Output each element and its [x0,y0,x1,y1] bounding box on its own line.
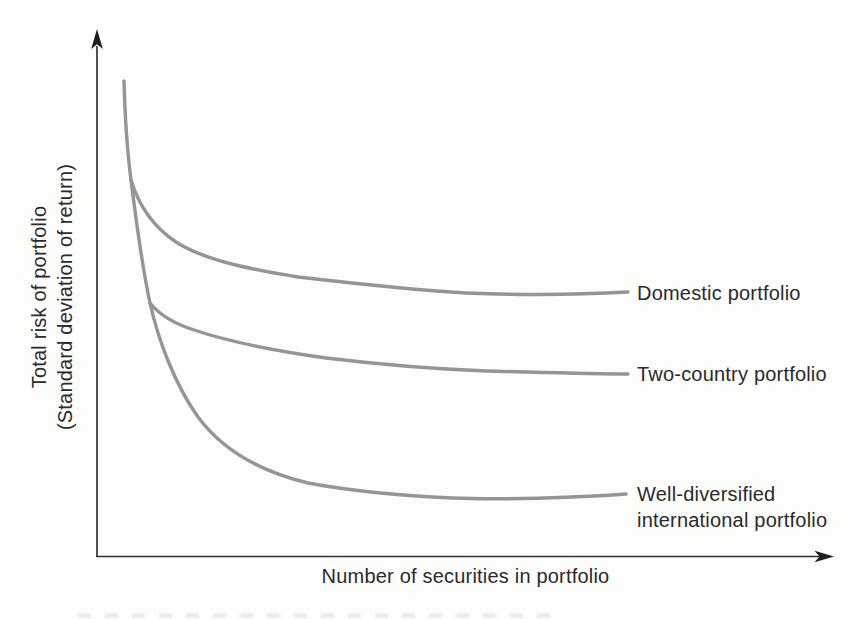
domestic-portfolio-curve [131,180,628,294]
well-diversified-portfolio-label: Well-diversified international portfolio [637,481,827,533]
well-diversified-international-curve [124,81,626,499]
domestic-portfolio-label: Domestic portfolio [637,282,801,304]
risk-diversification-figure: Total risk of portfolio (Standard deviat… [0,0,868,619]
x-axis-label: Number of securities in portfolio [97,565,834,588]
two-country-portfolio-curve [150,303,628,374]
two-country-portfolio-label: Two-country portfolio [637,363,827,385]
well-diversified-label-line1: Well-diversified [637,481,827,507]
y-axis-label-line1: Total risk of portfolio [26,164,52,430]
y-axis-label: Total risk of portfolio (Standard deviat… [26,164,78,430]
page-scan-artifact [78,613,558,618]
well-diversified-label-line2: international portfolio [637,507,827,533]
y-axis-label-line2: (Standard deviation of return) [52,164,78,430]
